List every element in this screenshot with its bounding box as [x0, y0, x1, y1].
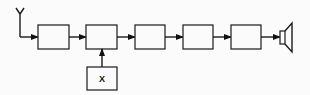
block-x-label: X — [99, 74, 105, 84]
block-2 — [86, 25, 117, 49]
block-1 — [38, 25, 69, 49]
loudspeaker-icon — [280, 23, 292, 52]
antenna-icon — [16, 8, 24, 37]
block-3 — [135, 25, 165, 49]
block-4 — [183, 25, 213, 49]
block-diagram: X — [0, 0, 310, 95]
block-5 — [231, 25, 261, 49]
